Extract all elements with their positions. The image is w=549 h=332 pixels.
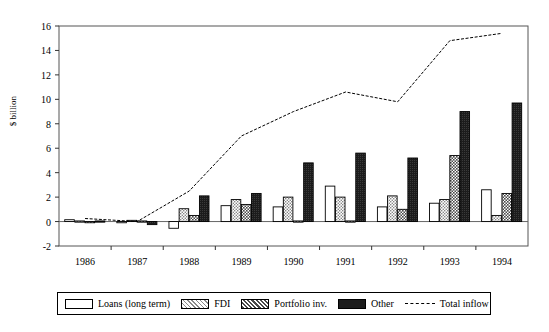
chart-legend: Loans (long term)FDIPortfolio inv.OtherT… — [57, 292, 491, 315]
bar-other-1990 — [304, 163, 314, 222]
bar-portfolio-inv-1994 — [502, 193, 512, 221]
bar-loans-long-term-1986 — [65, 220, 75, 222]
bar-loans-long-term-1992 — [377, 207, 387, 222]
bar-portfolio-inv-1992 — [398, 209, 408, 221]
bar-other-1986 — [95, 221, 105, 222]
legend-item: Loans (long term) — [65, 298, 170, 309]
bar-loans-long-term-1988 — [169, 222, 179, 229]
bar-loans-long-term-1994 — [482, 190, 492, 222]
bar-other-1991 — [356, 153, 366, 221]
bar-fdi-1992 — [388, 196, 398, 222]
legend-color-swatch — [65, 299, 93, 309]
legend-item-label: FDI — [214, 298, 230, 309]
legend-color-swatch — [338, 299, 366, 309]
bar-fdi-1988 — [179, 209, 189, 222]
bar-fdi-1990 — [283, 197, 293, 221]
bar-portfolio-inv-1988 — [189, 215, 199, 221]
bar-other-1989 — [252, 193, 262, 221]
plot-area — [0, 0, 549, 332]
bar-fdi-1991 — [335, 197, 345, 221]
bar-loans-long-term-1990 — [273, 207, 283, 222]
legend-color-swatch — [181, 299, 209, 309]
legend-item: Total inflow — [405, 298, 489, 309]
bar-loans-long-term-1989 — [221, 206, 231, 222]
legend-item-label: Other — [371, 298, 394, 309]
bar-portfolio-inv-1990 — [294, 221, 304, 222]
legend-item: Other — [338, 298, 394, 309]
bar-other-1992 — [408, 158, 418, 222]
legend-color-swatch — [241, 299, 269, 309]
bar-portfolio-inv-1986 — [85, 222, 95, 223]
chart-figure: $ billion -20246810121416 19861987198819… — [0, 0, 549, 332]
bar-portfolio-inv-1987 — [137, 221, 147, 222]
bar-other-1987 — [147, 222, 157, 225]
bar-fdi-1993 — [440, 200, 450, 222]
bar-loans-long-term-1993 — [430, 203, 440, 221]
bar-other-1994 — [512, 103, 522, 222]
bar-other-1988 — [199, 196, 209, 222]
bar-portfolio-inv-1989 — [241, 204, 251, 221]
legend-item-label: Portfolio inv. — [274, 298, 327, 309]
bar-loans-long-term-1991 — [325, 186, 335, 221]
legend-item: FDI — [181, 298, 230, 309]
bar-fdi-1994 — [492, 215, 502, 221]
legend-item-label: Total inflow — [440, 298, 489, 309]
bar-fdi-1986 — [75, 221, 85, 222]
bar-portfolio-inv-1993 — [450, 156, 460, 222]
line-total-inflow — [85, 33, 502, 221]
legend-item-label: Loans (long term) — [98, 298, 170, 309]
bar-fdi-1989 — [231, 200, 241, 222]
legend-line-swatch — [405, 303, 435, 304]
legend-item: Portfolio inv. — [241, 298, 327, 309]
bar-other-1993 — [460, 112, 470, 222]
bar-portfolio-inv-1991 — [346, 221, 356, 222]
bar-loans-long-term-1987 — [117, 222, 127, 223]
